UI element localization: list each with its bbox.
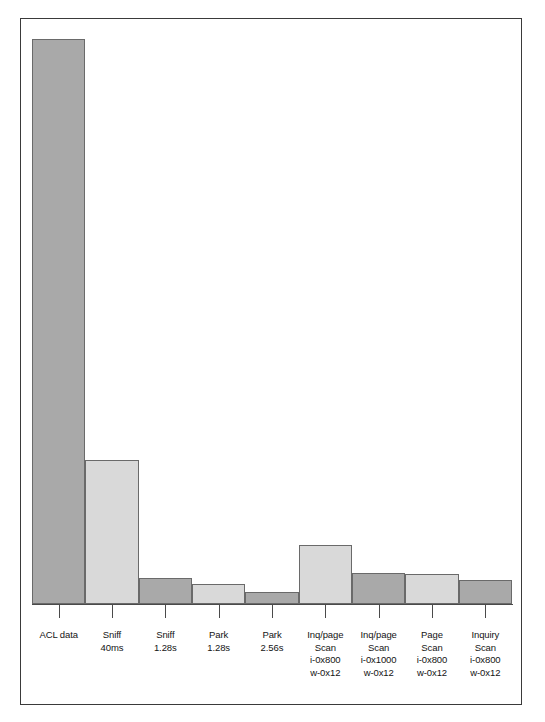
x-axis-category-label: Inq/pageScani-0x800w-0x12 [299, 629, 352, 679]
category-label-line: i-0x800 [299, 654, 352, 667]
category-label-line: Scan [405, 642, 458, 655]
x-axis-category-label: Inq/pageScani-0x1000w-0x12 [352, 629, 405, 679]
category-label-line: w-0x12 [299, 667, 352, 680]
x-axis-tick [432, 605, 433, 618]
x-axis-category-label: PageScani-0x800w-0x12 [405, 629, 458, 679]
category-label-line: Scan [299, 642, 352, 655]
x-axis-category-labels: ACL dataSniff40msSniff1.28sPark1.28sPark… [32, 629, 513, 699]
bar [245, 592, 298, 604]
x-axis-category-label: InquiryScani-0x800w-0x12 [459, 629, 512, 679]
bar [352, 573, 405, 604]
category-label-line: Inq/page [352, 629, 405, 642]
bar [405, 574, 458, 604]
category-label-line: w-0x12 [405, 667, 458, 680]
bar [85, 460, 138, 604]
x-axis-tick [59, 605, 60, 618]
x-axis-tick [485, 605, 486, 618]
category-label-line: Sniff [139, 629, 192, 642]
bar-chart-figure: ACL dataSniff40msSniff1.28sPark1.28sPark… [0, 0, 545, 722]
x-axis-tick [219, 605, 220, 618]
x-axis-tick [165, 605, 166, 618]
bar [299, 545, 352, 604]
category-label-line: Scan [352, 642, 405, 655]
category-label-line: i-0x800 [459, 654, 512, 667]
bar [32, 39, 85, 605]
bar [192, 584, 245, 604]
x-axis-category-label: Sniff1.28s [139, 629, 192, 654]
category-label-line: Inq/page [299, 629, 352, 642]
bar [139, 578, 192, 604]
category-label-line: Page [405, 629, 458, 642]
x-axis-tick [112, 605, 113, 618]
category-label-line: w-0x12 [352, 667, 405, 680]
category-label-line: Scan [459, 642, 512, 655]
category-label-line: Inquiry [459, 629, 512, 642]
x-axis-category-label: ACL data [32, 629, 85, 642]
category-label-line: 1.28s [192, 642, 245, 655]
x-axis-tick [325, 605, 326, 618]
category-label-line: 2.56s [245, 642, 298, 655]
category-label-line: i-0x800 [405, 654, 458, 667]
category-label-line: Sniff [85, 629, 138, 642]
x-axis-tick [272, 605, 273, 618]
x-axis-tick [379, 605, 380, 618]
category-label-line: Park [245, 629, 298, 642]
bars-layer [32, 21, 512, 604]
plot-frame: ACL dataSniff40msSniff1.28sPark1.28sPark… [20, 18, 522, 705]
category-label-line: i-0x1000 [352, 654, 405, 667]
category-label-line: Park [192, 629, 245, 642]
bar [459, 580, 512, 604]
x-axis-category-label: Sniff40ms [85, 629, 138, 654]
category-label-line: 40ms [85, 642, 138, 655]
plot-area [32, 21, 512, 604]
x-axis-category-label: Park2.56s [245, 629, 298, 654]
x-axis-category-label: Park1.28s [192, 629, 245, 654]
category-label-line: w-0x12 [459, 667, 512, 680]
category-label-line: ACL data [32, 629, 85, 642]
category-label-line: 1.28s [139, 642, 192, 655]
